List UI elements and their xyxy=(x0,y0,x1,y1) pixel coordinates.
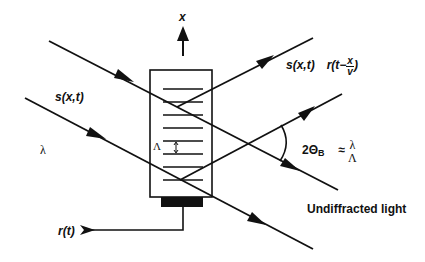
bragg-cell-diagram: x s(x,t) λ Λ s(x,t) r(t−xv) 2ΘB ≈ λΛ Und… xyxy=(0,0,425,262)
diagram-canvas xyxy=(0,0,425,262)
modulation-fraction: xv xyxy=(346,56,354,77)
piezo-transducer xyxy=(161,197,203,207)
undiffracted-light-label: Undiffracted light xyxy=(307,203,406,215)
diffracted-signal-text: s(x,t) xyxy=(286,58,315,72)
diffracted-signal-label: s(x,t) r(t−xv) xyxy=(286,56,358,77)
bragg-angle-symbol: 2Θ xyxy=(302,143,318,157)
lower-diffracted-beam xyxy=(180,94,342,180)
ratio-denominator: Λ xyxy=(348,152,357,164)
x-axis-arrow xyxy=(177,26,189,56)
rf-input-wire xyxy=(80,207,183,235)
incident-signal-label: s(x,t) xyxy=(55,91,84,103)
rf-input-label: r(t) xyxy=(58,225,75,237)
grating-period-marker xyxy=(174,142,178,153)
approx-symbol: ≈ xyxy=(339,143,346,157)
bragg-angle-relation: 2ΘB ≈ λΛ xyxy=(302,139,357,164)
wavelength-label: λ xyxy=(40,144,46,156)
modulation-prefix: r(t− xyxy=(327,58,347,72)
bragg-angle-subscript: B xyxy=(318,148,325,158)
wavelength-ratio: λΛ xyxy=(348,139,357,164)
grating-period-label: Λ xyxy=(153,141,161,152)
modulation-suffix: ) xyxy=(354,58,358,72)
modulation-denominator: v xyxy=(347,67,353,77)
axis-x-label: x xyxy=(179,11,186,23)
bragg-angle-arc xyxy=(280,125,286,161)
